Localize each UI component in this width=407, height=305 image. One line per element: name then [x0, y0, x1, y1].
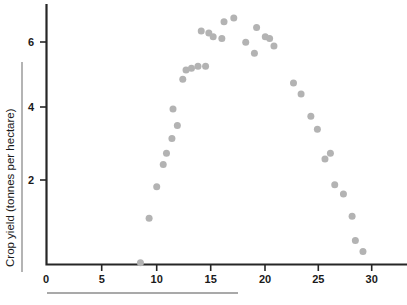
x-tick-label-30: 30 — [366, 273, 378, 285]
data-point — [340, 191, 347, 198]
data-point — [270, 42, 277, 49]
data-point — [188, 65, 195, 72]
data-point — [170, 105, 177, 112]
data-point — [218, 35, 225, 42]
data-point — [210, 33, 217, 40]
data-point — [266, 35, 273, 42]
data-point — [331, 181, 338, 188]
data-point — [163, 150, 170, 157]
y-axis-title: Crop yield (tonnes per hectare) — [4, 108, 16, 267]
data-point — [290, 79, 297, 86]
data-point — [327, 150, 334, 157]
data-point — [137, 259, 144, 266]
x-tick-label-25: 25 — [312, 273, 324, 285]
data-point — [230, 15, 237, 22]
data-point — [253, 24, 260, 31]
axis-lines — [47, 5, 407, 265]
data-point — [194, 63, 201, 70]
data-point — [153, 183, 160, 190]
data-point — [251, 50, 258, 57]
data-point — [307, 113, 314, 120]
data-point — [349, 213, 356, 220]
y-tick-label-4: 4 — [28, 101, 35, 113]
data-point — [298, 91, 305, 98]
y-tick-label-6: 6 — [28, 36, 34, 48]
data-point — [168, 135, 175, 142]
data-point — [198, 28, 205, 35]
data-point — [352, 237, 359, 244]
x-tick-label-10: 10 — [151, 273, 163, 285]
x-tick-label-0: 0 — [43, 273, 49, 285]
x-tick-label-15: 15 — [205, 273, 217, 285]
data-point — [359, 248, 366, 255]
plot-area: 6 4 2 0 5 10 15 20 25 30 Crop yield (ton… — [0, 0, 407, 305]
data-point — [314, 126, 321, 133]
y-tick-label-2: 2 — [28, 174, 34, 186]
data-point — [174, 122, 181, 129]
y-tick-marks — [40, 42, 46, 180]
data-point — [242, 39, 249, 46]
data-point — [202, 63, 209, 70]
data-point — [160, 161, 167, 168]
data-point — [179, 76, 186, 83]
scatter-chart: 6 4 2 0 5 10 15 20 25 30 Crop yield (ton… — [0, 0, 407, 305]
data-point — [221, 18, 228, 25]
x-tick-label-20: 20 — [259, 273, 271, 285]
data-point — [321, 155, 328, 162]
x-tick-label-5: 5 — [99, 273, 105, 285]
data-point-group — [137, 15, 367, 267]
data-point — [146, 215, 153, 222]
